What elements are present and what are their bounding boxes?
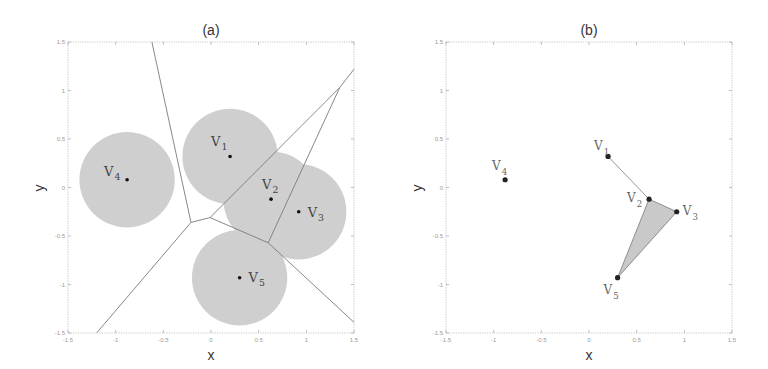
shaded-triangle	[618, 199, 677, 278]
node-point	[269, 197, 273, 201]
node-label-subscript: 4	[114, 171, 120, 182]
x-tick-label: -1.5	[63, 337, 74, 343]
x-tick-label: 1.5	[350, 337, 359, 343]
x-tick-label: 0	[587, 337, 591, 343]
y-axis-label: y	[409, 185, 425, 192]
node-point	[228, 155, 232, 159]
y-tick-label: 0.5	[435, 136, 444, 142]
node-point	[238, 276, 242, 280]
y-tick-label: -1.5	[433, 330, 444, 336]
node-label-subscript: 2	[637, 199, 643, 209]
figure: (a) V1V2V3V4V5 -1.5-1-0.500.511.51.510.5…	[0, 0, 768, 369]
node-point	[297, 210, 301, 214]
x-axis-label: x	[586, 347, 593, 363]
axis-ticks: -1.5-1-0.500.511.51.510.50-0.5-1-1.5	[433, 39, 737, 343]
node-point	[125, 178, 129, 182]
node-point	[646, 197, 651, 202]
node-label-subscript: 3	[318, 212, 324, 223]
y-tick-label: -1.5	[55, 330, 66, 336]
x-tick-label: -1.5	[441, 337, 452, 343]
x-tick-label: 1	[305, 337, 309, 343]
node-label-subscript: 5	[613, 291, 619, 301]
node-label-subscript: 3	[692, 212, 698, 222]
y-tick-label: 1.5	[57, 39, 66, 45]
y-axis-label: y	[31, 185, 47, 192]
node-label: V5	[603, 283, 619, 301]
x-tick-label: -0.5	[158, 337, 169, 343]
y-tick-label: 1	[62, 88, 66, 94]
panel-a-title: (a)	[202, 22, 219, 38]
panel-b-title: (b)	[580, 22, 597, 38]
x-tick-label: -0.5	[536, 337, 547, 343]
node-label-subscript: 1	[604, 147, 610, 157]
y-tick-label: -1	[438, 282, 444, 288]
node-point	[503, 177, 508, 182]
panel-b: (b) V1V2V3V4V5 -1.5-1-0.500.511.51.510.5…	[409, 22, 737, 363]
x-tick-label: -1	[491, 337, 497, 343]
voronoi-edge	[340, 69, 354, 87]
x-tick-label: 0.5	[254, 337, 263, 343]
node-label: V2	[626, 191, 642, 209]
voronoi-edge	[97, 222, 191, 333]
node-label-subscript: 1	[221, 141, 227, 152]
x-tick-label: -1	[113, 337, 119, 343]
node-label-subscript: 5	[259, 277, 265, 288]
node-label: V4	[491, 159, 508, 177]
axes-frame	[446, 42, 732, 333]
x-tick-label: 1	[683, 337, 687, 343]
node-label: V1	[593, 139, 609, 157]
y-tick-label: -0.5	[55, 233, 66, 239]
y-tick-label: -0.5	[433, 233, 444, 239]
node-point	[674, 209, 679, 214]
voronoi-edge	[191, 218, 210, 223]
y-tick-label: 0.5	[57, 136, 66, 142]
y-tick-label: 0	[62, 185, 66, 191]
x-tick-label: 0.5	[632, 337, 641, 343]
y-tick-label: 0	[440, 185, 444, 191]
node-label-subscript: 4	[502, 167, 508, 177]
x-tick-label: 1.5	[728, 337, 737, 343]
y-tick-label: -1	[60, 282, 66, 288]
y-tick-label: 1.5	[435, 39, 444, 45]
node-label: V3	[682, 204, 698, 222]
x-axis-label: x	[208, 347, 215, 363]
node-label-subscript: 2	[272, 184, 278, 195]
panel-a: (a) V1V2V3V4V5 -1.5-1-0.500.511.51.510.5…	[31, 22, 359, 363]
y-tick-label: 1	[440, 88, 444, 94]
triangles	[618, 199, 677, 278]
node-point	[615, 275, 620, 280]
x-tick-label: 0	[209, 337, 213, 343]
